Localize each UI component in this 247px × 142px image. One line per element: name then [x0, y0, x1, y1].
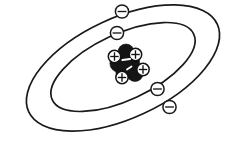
nucleus-highlight-1: [123, 59, 131, 60]
electron-outer-bottom: [163, 100, 176, 113]
proton-2: [129, 48, 141, 60]
proton-1: [108, 50, 120, 62]
electron-inner-top: [110, 26, 123, 39]
electron-inner-bottom: [151, 82, 164, 95]
proton-3: [137, 63, 149, 75]
atom-diagram: Bohr model atom diagram: [0, 0, 247, 142]
proton-4: [116, 71, 128, 83]
atom-diagram-canvas: [0, 0, 247, 142]
electron-outer-top: [115, 5, 128, 18]
